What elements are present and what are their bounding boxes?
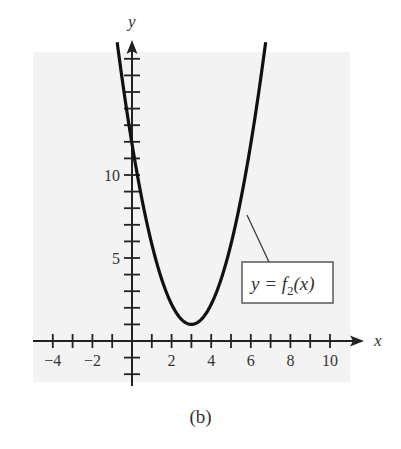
plot-background <box>33 52 350 382</box>
x-tick-label: −2 <box>84 352 101 369</box>
figure: −4−2246810510 x y y = f2(x) (b) <box>0 0 401 449</box>
y-tick-label: 5 <box>112 250 120 267</box>
x-axis-label: x <box>373 331 382 350</box>
parabola-plot: −4−2246810510 x y y = f2(x) <box>0 0 401 449</box>
x-tick-label: 8 <box>286 352 294 369</box>
x-tick-label: 10 <box>322 352 338 369</box>
y-tick-label: 10 <box>104 167 120 184</box>
y-axis-label: y <box>126 12 136 31</box>
figure-caption: (b) <box>0 406 401 428</box>
x-tick-label: 6 <box>247 352 255 369</box>
x-tick-label: −4 <box>44 352 61 369</box>
x-tick-label: 4 <box>207 352 215 369</box>
x-tick-label: 2 <box>168 352 176 369</box>
